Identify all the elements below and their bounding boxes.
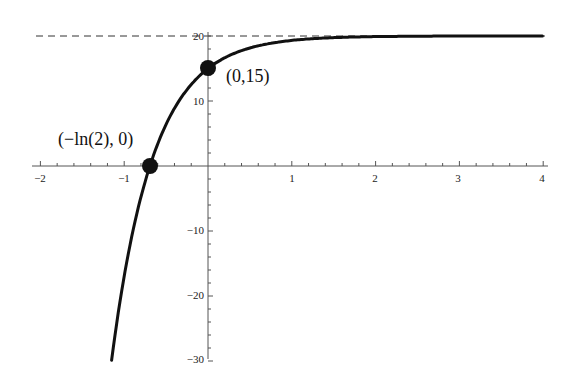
x-tick-label: −2 (34, 172, 46, 184)
y-tick-label: −30 (187, 353, 205, 365)
y-tick-label: 20 (193, 30, 205, 42)
y-axis-minor-ticks (208, 36, 213, 361)
y-tick-label: 10 (193, 95, 205, 107)
x-axis-minor-ticks (40, 161, 543, 166)
annotation-x-intercept: (−ln(2), 0) (58, 129, 133, 150)
x-tick-labels: −2 −1 1 2 3 4 (34, 172, 545, 184)
y-tick-label: −20 (187, 289, 205, 301)
point-y-intercept (200, 60, 216, 76)
function-curve (112, 36, 543, 360)
x-tick-label: 3 (455, 172, 461, 184)
annotation-y-intercept: (0,15) (226, 66, 270, 87)
x-tick-label: 2 (372, 172, 378, 184)
point-x-intercept (142, 158, 158, 174)
y-tick-label: −10 (187, 224, 205, 236)
x-tick-label: −1 (118, 172, 130, 184)
x-tick-label: 1 (289, 172, 295, 184)
exponential-chart: −2 −1 1 2 3 4 20 10 −10 −20 −30 (0,15) (… (0, 0, 578, 387)
x-tick-label: 4 (539, 172, 545, 184)
